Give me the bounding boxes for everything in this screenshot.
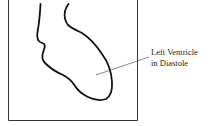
label-pointer-line xyxy=(96,57,149,75)
ventricle-outline xyxy=(37,4,112,100)
frame-box xyxy=(9,0,138,121)
label-line-1: Left Ventricle xyxy=(151,47,198,58)
label-line-2: in Diastole xyxy=(151,58,198,69)
ventricle-label: Left Ventricle in Diastole xyxy=(151,47,198,69)
